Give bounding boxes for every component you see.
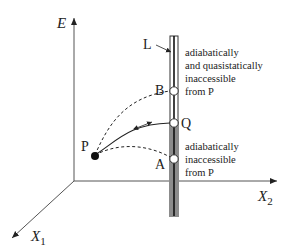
label-L: L: [143, 37, 152, 52]
lower-annotation: adiabatically inaccessible from P: [185, 141, 239, 178]
x2-axis-label: X2: [257, 188, 273, 207]
label-B: B: [155, 83, 164, 98]
svg-text:adiabatically: adiabatically: [185, 47, 239, 58]
L-pointer-arrow: [156, 45, 171, 52]
thermodynamic-state-diagram: E X2 X1 P B Q A L adiabatically and quas…: [0, 0, 289, 251]
svg-text:from P: from P: [185, 86, 214, 97]
label-A: A: [155, 157, 166, 172]
svg-text:from P: from P: [185, 167, 214, 178]
svg-text:and quasistatically: and quasistatically: [185, 60, 264, 71]
svg-text:adiabatically: adiabatically: [185, 141, 239, 152]
point-Q: [170, 119, 178, 127]
label-Q: Q: [181, 116, 191, 131]
paths-from-P: [95, 45, 171, 157]
point-P: [91, 152, 99, 160]
x1-axis: [12, 181, 74, 238]
e-axis-label: E: [56, 15, 66, 31]
svg-text:inaccessible: inaccessible: [185, 73, 236, 84]
dashed-path-to-B: [95, 91, 170, 155]
dashed-path-to-A: [95, 147, 170, 157]
point-B: [170, 87, 178, 95]
x1-axis-label: X1: [30, 228, 46, 247]
svg-text:inaccessible: inaccessible: [185, 154, 236, 165]
label-P: P: [81, 139, 89, 154]
point-A: [170, 155, 178, 163]
upper-annotation: adiabatically and quasistatically inacce…: [185, 47, 264, 97]
